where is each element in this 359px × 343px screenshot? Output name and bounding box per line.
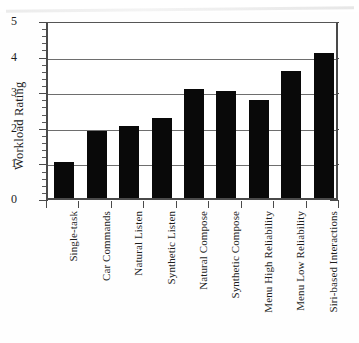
- x-tick: [338, 201, 339, 208]
- y-tick-label-1: 1: [0, 156, 17, 171]
- y-tick-label-4: 4: [0, 50, 17, 65]
- x-tick: [208, 201, 209, 208]
- x-tick-label: Menu Low Reliability: [294, 211, 306, 311]
- x-tick: [46, 201, 47, 208]
- bar: [184, 89, 204, 198]
- x-tick: [273, 201, 274, 208]
- x-tick-label: Menu High Reliability: [262, 211, 274, 313]
- x-tick-label: Synthetic Listen: [165, 211, 177, 284]
- bar: [119, 126, 139, 198]
- x-tick: [78, 201, 79, 208]
- x-tick: [241, 201, 242, 208]
- bar: [281, 71, 301, 198]
- y-tick-label-2: 2: [0, 121, 17, 136]
- x-tick-label: Natural Listen: [132, 211, 144, 276]
- x-tick: [306, 201, 307, 208]
- x-tick-label: Natural Compose: [197, 211, 209, 290]
- x-tick-label: Single-task: [67, 211, 79, 262]
- x-tick-label: Car Commands: [100, 211, 112, 281]
- y-tick-label-5: 5: [0, 14, 17, 29]
- x-tick-label: Synthetic Compose: [229, 211, 241, 299]
- bar-chart-figure: Workload Rating 012345 Single-taskCar Co…: [0, 0, 359, 343]
- bar: [152, 118, 172, 198]
- bar: [87, 131, 107, 198]
- x-tick: [143, 201, 144, 208]
- x-tick: [176, 201, 177, 208]
- y-tick-label-3: 3: [0, 85, 17, 100]
- x-tick: [111, 201, 112, 208]
- bar: [54, 162, 74, 198]
- bar: [314, 53, 334, 198]
- bar: [216, 91, 236, 198]
- x-tick-label: Siri-based Interactions: [327, 211, 339, 313]
- plot-area: [46, 22, 338, 200]
- gridline-4: [48, 59, 336, 60]
- y-tick-label-0: 0: [0, 192, 17, 207]
- bar: [249, 100, 269, 198]
